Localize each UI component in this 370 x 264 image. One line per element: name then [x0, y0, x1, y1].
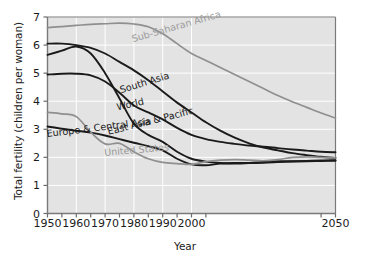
x-tick-label: 2050 [314, 217, 358, 230]
y-tick-label: 3 [14, 123, 40, 136]
x-axis-label: Year [0, 240, 370, 252]
x-tick-label: 2000 [170, 217, 214, 230]
y-tick-label: 6 [14, 39, 40, 52]
chart-figure: Total fertility (children per woman) Yea… [0, 0, 370, 264]
y-tick-label: 2 [14, 151, 40, 164]
y-tick-label: 7 [14, 11, 40, 24]
y-tick-label: 5 [14, 67, 40, 80]
y-tick-label: 1 [14, 179, 40, 192]
y-tick-label: 4 [14, 95, 40, 108]
